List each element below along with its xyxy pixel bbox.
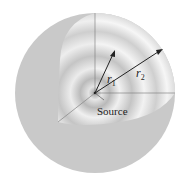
source-label: Source — [97, 105, 128, 117]
sphere-diagram: r1 r2 Source — [0, 0, 191, 186]
